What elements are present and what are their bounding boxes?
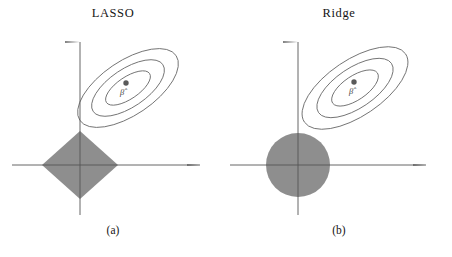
rss-contours [289,31,421,146]
plot-lasso: β̂ [0,0,226,257]
plot-ridge: β̂ [226,0,452,257]
ols-estimate-point [123,80,128,85]
rss-contours [65,33,191,143]
regularization-constraint-figure: LASSO β [0,0,452,257]
beta-hat-label: β̂ [119,87,128,97]
ols-estimate-point [351,79,356,84]
rss-contour-inner [100,64,155,111]
panel-caption-a: (a) [0,224,226,236]
beta-hat-label: β̂ [348,86,357,96]
rss-contour-outer [65,33,191,143]
panel-ridge: Ridge β [226,0,452,257]
rss-contour-outer [289,31,421,146]
panel-caption-b: (b) [226,224,452,236]
rss-contour-inner [326,63,384,113]
rss-contour-middle [83,49,174,127]
panel-lasso: LASSO β [0,0,226,257]
rss-contour-middle [307,47,402,129]
